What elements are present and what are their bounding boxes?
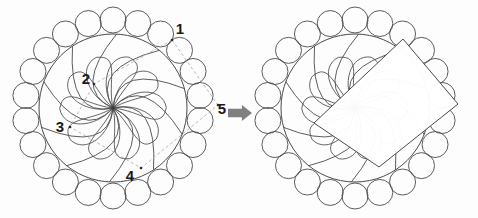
vertex-number-label-2: 2 <box>82 70 90 87</box>
ring-circle <box>255 108 281 134</box>
ring-circle <box>167 153 193 179</box>
ring-circle <box>317 179 343 205</box>
ring-circle <box>20 132 46 158</box>
vertex-marker-2 <box>93 83 96 86</box>
rosette-center-dot <box>111 106 114 109</box>
figure-canvas: 12345 <box>0 0 478 218</box>
ring-circle <box>317 11 343 37</box>
ring-circle <box>275 37 301 63</box>
spiral-arm <box>42 108 113 137</box>
ring-circle <box>187 82 213 108</box>
ring-circle <box>180 58 206 84</box>
ring-circle <box>75 179 101 205</box>
ring-circle <box>125 11 151 37</box>
transform-arrow-icon <box>228 105 252 121</box>
vertex-number-label-3: 3 <box>56 118 64 135</box>
ring-circle <box>187 108 213 134</box>
ring-circle <box>13 108 39 134</box>
vertex-marker-4 <box>140 167 143 170</box>
rosette-with-construction-lines <box>13 7 213 209</box>
ring-circle <box>52 21 78 47</box>
vertex-marker-1 <box>171 39 174 42</box>
ring-circle <box>294 169 320 195</box>
dashed-construction-polygon <box>70 40 218 168</box>
ring-circle <box>33 37 59 63</box>
construction-annotations: 12345 <box>56 20 226 184</box>
ring-circle <box>367 179 393 205</box>
ring-circle <box>342 183 368 209</box>
ring-circle <box>148 169 174 195</box>
ring-circle <box>262 132 288 158</box>
ring-circle <box>367 11 393 37</box>
spiral-arm <box>44 82 113 121</box>
vertex-marker-3 <box>69 126 72 129</box>
vertex-number-label-5: 5 <box>218 100 226 117</box>
ring-circle <box>390 169 416 195</box>
ring-circle <box>342 7 368 33</box>
spiral-arm <box>113 96 182 135</box>
ring-circle <box>75 11 101 37</box>
ring-circle <box>255 82 281 108</box>
dashed-closing-edge <box>172 40 218 105</box>
vertex-number-label-4: 4 <box>126 167 135 184</box>
ring-circle <box>294 21 320 47</box>
vertex-number-label-1: 1 <box>176 20 184 37</box>
diagram-svg: 12345 <box>0 0 478 218</box>
ring-circle <box>13 82 39 108</box>
ring-circle <box>100 183 126 209</box>
ring-circle <box>100 7 126 33</box>
ring-circle <box>52 169 78 195</box>
ring-circle <box>148 21 174 47</box>
ring-circle <box>409 153 435 179</box>
spiral-arm <box>113 79 184 108</box>
